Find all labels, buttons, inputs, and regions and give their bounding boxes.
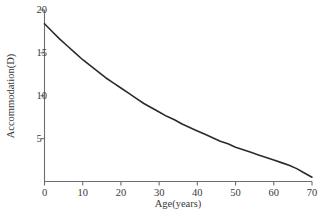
x-tick-label: 60 <box>269 188 280 199</box>
y-axis-ticks <box>41 10 45 139</box>
x-axis-title: Age(years) <box>155 199 202 210</box>
x-tick-label: 40 <box>192 188 203 199</box>
plot-area <box>0 0 331 224</box>
x-tick-label: 0 <box>42 188 47 199</box>
y-axis-title: Accommodation(D) <box>6 54 17 139</box>
x-axis-ticks <box>45 182 313 186</box>
x-tick-label: 70 <box>307 188 318 199</box>
x-tick-label: 20 <box>116 188 127 199</box>
x-tick-label: 30 <box>154 188 165 199</box>
accommodation-curve <box>45 24 313 177</box>
x-tick-label: 10 <box>77 188 88 199</box>
x-tick-label: 50 <box>230 188 241 199</box>
axes <box>44 10 312 182</box>
accommodation-vs-age-chart: 010203040506070 5101520 Age(years) Accom… <box>0 0 331 224</box>
